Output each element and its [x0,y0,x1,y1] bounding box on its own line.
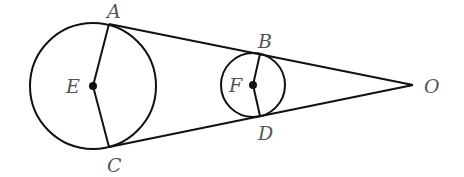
radius-fb [253,54,260,85]
radius-ec [93,86,109,147]
label-f: F [228,74,243,96]
center-dot-e [89,82,97,90]
center-dot-f [249,81,257,89]
radius-fd [253,85,260,116]
label-c: C [107,154,122,176]
label-a: A [105,0,121,22]
label-b: B [257,30,272,52]
radius-ea [93,24,109,86]
label-e: E [65,75,80,97]
label-o: O [424,75,440,97]
label-d: D [257,122,273,144]
tangent-circles-diagram: A B C D E F O [0,0,464,177]
